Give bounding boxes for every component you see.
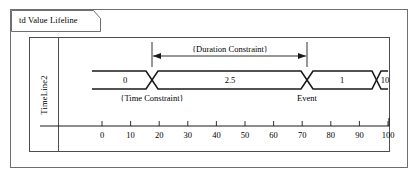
axis-tick-label-10: 10 xyxy=(126,130,135,140)
value-lifeline-plot xyxy=(0,0,418,186)
duration-arrowhead-left xyxy=(153,53,161,59)
time-constraint-label: {Time Constraint} xyxy=(120,93,183,103)
duration-constraint-label: {Duration Constraint} xyxy=(192,44,268,54)
segment-value-0: 0 xyxy=(123,75,127,85)
axis-tick-label-90: 90 xyxy=(355,130,364,140)
axis-tick-label-0: 0 xyxy=(100,130,104,140)
axis-tick-label-80: 80 xyxy=(327,130,336,140)
axis-tick-label-60: 60 xyxy=(269,130,278,140)
axis-tick-label-30: 30 xyxy=(184,130,193,140)
axis-tick-label-40: 40 xyxy=(212,130,221,140)
axis-tick-label-50: 50 xyxy=(241,130,250,140)
time-axis xyxy=(40,118,389,126)
segment-value-1: 2.5 xyxy=(225,75,236,85)
duration-arrowhead-right xyxy=(298,53,306,59)
segment-value-3: 10 xyxy=(381,75,390,85)
axis-tick-label-20: 20 xyxy=(155,130,164,140)
axis-tick-label-70: 70 xyxy=(298,130,307,140)
event-label: Event xyxy=(297,93,317,103)
axis-tick-label-100: 100 xyxy=(382,130,395,140)
segment-value-2: 1 xyxy=(340,75,344,85)
axis-tick-marks xyxy=(102,121,388,126)
diagram-canvas: td Value Lifeline TimeLine2 0 2.5 1 xyxy=(0,0,418,186)
